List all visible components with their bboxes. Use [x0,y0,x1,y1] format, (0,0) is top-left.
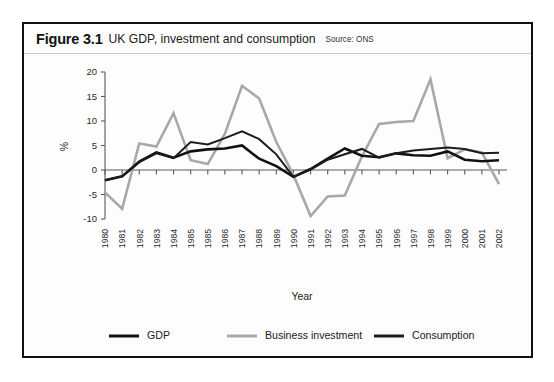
series-line [105,146,499,181]
x-tick-label: 1980 [100,229,110,248]
x-tick-label: 1998 [426,229,436,248]
x-tick-label: 1985 [203,229,213,248]
y-tick-label: 0 [92,164,97,175]
y-tick-label: -10 [83,213,97,224]
x-tick-label: 1981 [117,229,127,248]
line-chart: 20151050-5-10 19801981198219831984198519… [24,54,531,356]
x-tick-label: 1994 [357,229,367,248]
x-tick-label: 1990 [289,229,299,248]
y-tick-label: 15 [86,91,97,102]
chart-legend: GDPBusiness investmentConsumption [109,329,475,341]
x-tick-label: 1991 [306,229,316,248]
x-tick-label: 1996 [392,229,402,248]
x-axis: 1980198119821983198419851985198619871988… [100,170,507,248]
x-tick-label: 1995 [374,229,384,248]
legend-label: Consumption [412,329,475,341]
x-tick-label: 2002 [494,229,504,248]
x-tick-label: 1992 [323,229,333,248]
x-tick-label: 1997 [409,229,419,248]
x-tick-label: 2000 [460,229,470,248]
x-tick-label: 2001 [477,229,487,248]
legend-label: Business investment [265,329,362,341]
y-tick-label: 5 [92,140,97,151]
x-tick-label: 1993 [340,229,350,248]
series-line [105,131,499,180]
legend-label: GDP [147,329,170,341]
figure-header: Figure 3.1 UK GDP, investment and consum… [24,24,531,54]
y-axis: 20151050-5-10 [83,66,105,224]
y-tick-label: 10 [86,115,97,126]
chart-plot-area: 20151050-5-10 19801981198219831984198519… [24,54,531,356]
chart-series-group [105,79,499,216]
y-axis-title: % [58,142,70,151]
figure-title: UK GDP, investment and consumption [109,32,316,46]
figure-source: Source: ONS [326,33,374,44]
x-tick-label: 1984 [169,229,179,248]
figure-container: Figure 3.1 UK GDP, investment and consum… [22,22,533,358]
x-tick-label: 1986 [220,229,230,248]
x-tick-label: 1999 [443,229,453,248]
figure-number: Figure 3.1 [36,31,103,47]
x-tick-label: 1989 [272,229,282,248]
x-tick-label: 1988 [254,229,264,248]
x-tick-label: 1982 [135,229,145,248]
x-tick-label: 1987 [237,229,247,248]
y-tick-label: 20 [86,66,97,77]
x-axis-title: Year [291,290,313,302]
x-tick-label: 1983 [152,229,162,248]
x-tick-label: 1985 [186,229,196,248]
y-tick-label: -5 [89,189,97,200]
